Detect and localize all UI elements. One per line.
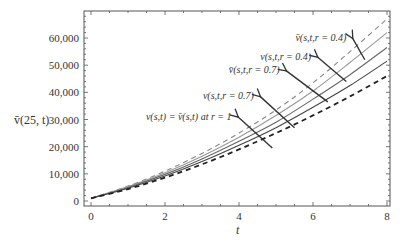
x-tick-label: 2 (162, 210, 168, 222)
annotation-label: v̄(s,t,r = 0.4) (295, 32, 347, 44)
series-lines (91, 19, 387, 198)
y-axis-label: v̄(25, t) (14, 113, 49, 127)
y-tick-label: 40,000 (49, 86, 80, 98)
annotations: v̄(s,t,r = 0.4)v(s,t,r = 0.4)v̄(s,t,r = … (146, 32, 365, 148)
annotation-label: v̄(s,t,r = 0.7) (229, 64, 281, 76)
y-tick-label: 0 (74, 195, 80, 207)
x-tick-label: 8 (384, 210, 390, 222)
x-axis-label: t (236, 223, 240, 237)
x-tick-label: 4 (236, 210, 242, 222)
x-tick-label: 0 (88, 210, 94, 222)
annotation-label: v(s,t,r = 0.7) (203, 90, 255, 102)
y-tick-label: 20,000 (49, 141, 80, 153)
y-tick-label: 60,000 (49, 32, 80, 44)
annotation-label: v(s,t) = v̄(s,t) at r = 1 (146, 111, 232, 123)
line-chart: 02468010,00020,00030,00040,00050,00060,0… (0, 0, 409, 243)
x-tick-label: 6 (310, 210, 316, 222)
series-line (91, 61, 387, 198)
annotation-label: v(s,t,r = 0.4) (260, 51, 312, 63)
y-tick-label: 30,000 (49, 114, 80, 126)
y-tick-label: 50,000 (49, 59, 80, 71)
y-tick-label: 10,000 (49, 168, 80, 180)
annotation-arrow (286, 70, 328, 102)
annotation-arrow (260, 96, 295, 128)
series-line (91, 19, 387, 198)
